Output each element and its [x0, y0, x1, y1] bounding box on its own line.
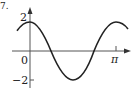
x-label-pi: π: [111, 54, 118, 65]
y-label-neg2: −2: [12, 75, 28, 86]
y-axis-arrow-icon: [28, 7, 33, 14]
y-label-2: 2: [20, 12, 27, 23]
origin-label: 0: [21, 55, 28, 66]
x-axis-arrow-icon: [124, 49, 131, 54]
